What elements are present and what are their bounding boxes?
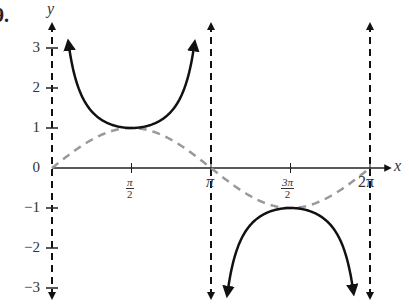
- x-tick-two-pi: 2π: [358, 173, 374, 191]
- y-tick-1: 1: [10, 119, 40, 136]
- y-tick-neg2: −2: [10, 239, 40, 256]
- y-tick-2: 2: [10, 79, 40, 96]
- csc-sin-plot: [0, 0, 409, 304]
- csc-branch: [69, 45, 195, 128]
- x-axis-label: x: [394, 157, 401, 175]
- y-tick-0: 0: [10, 159, 40, 176]
- csc-branch: [228, 208, 354, 292]
- y-tick-neg3: −3: [10, 279, 40, 296]
- x-tick-pi: π: [206, 173, 214, 191]
- y-tick-3: 3: [10, 39, 40, 56]
- x-tick-pi-half: π 2: [126, 177, 134, 200]
- y-tick-neg1: −1: [10, 199, 40, 216]
- x-tick-three-pi-half: 3π 2: [281, 177, 294, 200]
- x-tick-pi-half-den: 2: [126, 189, 134, 200]
- y-axis-label: y: [47, 0, 54, 18]
- x-tick-three-pi-half-den: 2: [281, 189, 294, 200]
